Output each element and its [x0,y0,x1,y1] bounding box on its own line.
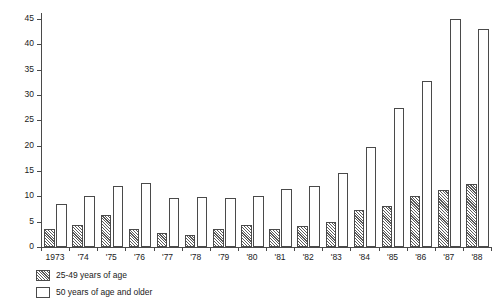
x-axis-tick [97,247,98,251]
legend-label: 25-49 years of age [56,270,127,281]
y-axis-tick: 15 [0,171,41,172]
y-tick-label: 5 [29,216,34,227]
x-axis-label: '83 [322,252,350,263]
y-tick-label: 30 [25,89,34,100]
x-axis-label: '79 [210,252,238,263]
bar-age-25-49 [213,229,224,247]
bar-group [241,14,264,247]
y-axis-tick: 10 [0,196,41,197]
y-tick-label: 10 [25,190,34,201]
bar-age-50-plus [450,19,461,247]
x-axis-label: '76 [125,252,153,263]
chart-legend: 25-49 years of age50 years of age and ol… [36,268,152,301]
bar-group [410,14,433,247]
legend-item: 50 years of age and older [36,285,152,299]
bar-age-50-plus [366,147,377,247]
legend-swatch-age-50-plus [36,287,50,298]
x-axis-tick [407,247,408,251]
bar-age-50-plus [253,196,264,247]
x-axis-tick [210,247,211,251]
x-axis-tick [350,247,351,251]
x-axis-tick [182,247,183,251]
x-axis-tick [69,247,70,251]
bar-age-50-plus [197,197,208,247]
y-axis-tick: 0 [0,247,41,248]
bar-age-25-49 [410,196,421,247]
y-axis-tick: 35 [0,70,41,71]
bar-group [354,14,377,247]
bar-age-50-plus [84,196,95,247]
bar-age-25-49 [354,210,365,247]
bar-age-50-plus [309,186,320,247]
bar-group [466,14,489,247]
x-axis-tick [294,247,295,251]
bar-age-25-49 [438,190,449,247]
bar-chart: 051015202530354045 1973'74'75'76'77'78'7… [0,0,499,301]
x-axis-tick [125,247,126,251]
x-axis-label: '84 [350,252,378,263]
bar-age-50-plus [141,183,152,247]
bar-group [185,14,208,247]
x-axis-tick [435,247,436,251]
bar-age-25-49 [297,226,308,247]
y-axis-tick: 45 [0,19,41,20]
bar-group [44,14,67,247]
bar-group [438,14,461,247]
bar-group [72,14,95,247]
bar-age-50-plus [338,173,349,247]
bar-age-50-plus [56,204,67,247]
bar-age-25-49 [157,233,168,247]
y-tick-label: 15 [25,165,34,176]
legend-swatch-age-25-49 [36,270,50,281]
x-axis-label: '80 [238,252,266,263]
x-axis-tick [463,247,464,251]
x-axis-tick [322,247,323,251]
bar-group [213,14,236,247]
bar-age-25-49 [129,229,140,247]
x-axis-tick [491,247,492,251]
bar-age-25-49 [241,225,252,247]
y-tick-label: 0 [29,241,34,252]
bar-age-50-plus [478,29,489,247]
bar-age-25-49 [72,225,83,247]
bar-group [297,14,320,247]
bar-age-50-plus [169,198,180,247]
y-tick-label: 20 [25,140,34,151]
x-axis-label: '86 [407,252,435,263]
bar-age-50-plus [225,198,236,247]
x-axis-label: '74 [69,252,97,263]
y-axis-tick: 30 [0,95,41,96]
x-axis-label: '78 [182,252,210,263]
legend-label: 50 years of age and older [56,287,152,298]
y-axis-tick: 5 [0,222,41,223]
x-axis-tick [238,247,239,251]
bar-age-25-49 [269,229,280,247]
bar-age-50-plus [281,189,292,247]
x-axis-label: '87 [435,252,463,263]
bar-age-25-49 [185,235,196,247]
bar-group [157,14,180,247]
x-axis-tick [379,247,380,251]
y-axis-tick: 20 [0,146,41,147]
y-tick-label: 25 [25,114,34,125]
bar-group [101,14,124,247]
y-tick-label: 40 [25,38,34,49]
y-tick-label: 35 [25,64,34,75]
bar-age-25-49 [382,206,393,247]
x-axis-label: '85 [379,252,407,263]
bar-age-50-plus [113,186,124,247]
bar-group [129,14,152,247]
y-tick-label: 45 [25,13,34,24]
y-axis-tick: 40 [0,44,41,45]
bar-group [269,14,292,247]
x-axis-label: '77 [154,252,182,263]
bar-age-25-49 [466,184,477,247]
x-axis-tick [41,247,42,251]
x-axis-label: 1973 [41,252,69,263]
bar-age-25-49 [101,215,112,247]
x-axis-label: '75 [97,252,125,263]
x-axis-label: '82 [294,252,322,263]
bar-age-50-plus [422,81,433,247]
plot-area [41,14,491,247]
bar-group [382,14,405,247]
